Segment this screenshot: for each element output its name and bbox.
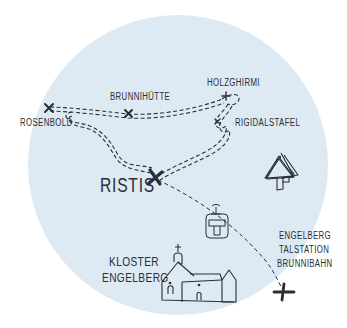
label-holzghirmi: HOLZGHIRMI [207, 77, 260, 89]
label-brunnihuette: BRUNNIHÜTTE [110, 91, 170, 103]
label-rigidalstafel: RIGIDALSTAFEL [235, 117, 300, 129]
label-talstation-line2: TALSTATION [279, 244, 329, 256]
map-canvas [0, 0, 347, 328]
label-talstation-line3: BRUNNIBAHN [277, 258, 332, 270]
label-kloster-line2: ENGELBERG [102, 271, 169, 286]
label-ristis: RISTIS [100, 174, 155, 197]
label-kloster-line1: KLOSTER [109, 255, 159, 270]
label-rosenbold: ROSENBOLD [20, 117, 72, 129]
label-talstation-line1: ENGELBERG [279, 230, 331, 242]
